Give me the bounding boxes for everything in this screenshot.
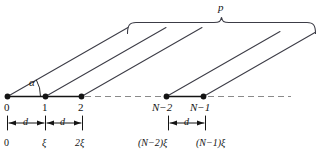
node-index-label-2: 2 — [78, 102, 84, 113]
position-label-2xi: 2ξ — [75, 138, 84, 148]
ray-bundle — [8, 28, 316, 97]
angle-label-alpha: α — [29, 77, 35, 88]
dim-arrowhead-right-n1 — [197, 120, 204, 125]
node-dot-2 — [79, 94, 85, 100]
dim-arrowhead-left-n2 — [170, 120, 177, 125]
ray-from-element-0 — [8, 28, 129, 97]
array-geometry-figure: p α 0 1 2 N−2 N−1 d d d 0 ξ 2ξ (N−2)ξ (N… — [0, 0, 322, 163]
node-dot-1 — [43, 94, 49, 100]
spacing-label-d-0: d — [23, 117, 28, 127]
node-index-label-n-minus-1: N−1 — [190, 102, 210, 113]
node-index-label-0: 0 — [4, 102, 10, 113]
ray-from-element-n-minus-1 — [204, 33, 316, 97]
brace-p — [128, 18, 316, 34]
spacing-label-d-1: d — [60, 117, 65, 127]
node-dot-n-minus-2 — [164, 94, 170, 100]
node-index-label-1: 1 — [42, 102, 48, 113]
dim-arrowhead-left-1 — [47, 120, 54, 125]
position-label-0: 0 — [4, 138, 9, 148]
ray-from-element-n-minus-2 — [167, 32, 281, 97]
dim-arrowhead-left-0 — [9, 120, 16, 125]
angle-arc-alpha — [36, 80, 40, 97]
bracket-label-p: p — [218, 2, 224, 13]
position-label-n-minus-2-xi: (N−2)ξ — [138, 138, 167, 148]
dim-arrowhead-right-2 — [74, 120, 81, 125]
node-index-label-n-minus-2: N−2 — [152, 102, 172, 113]
position-label-n-minus-1-xi: (N−1)ξ — [196, 138, 225, 148]
dimension-row-left — [8, 116, 83, 130]
node-dot-n-minus-1 — [201, 94, 207, 100]
ray-from-element-1 — [46, 28, 167, 97]
position-label-xi: ξ — [42, 138, 46, 148]
node-dot-0 — [5, 94, 11, 100]
dim-arrowhead-right-1 — [37, 120, 44, 125]
spacing-label-d-2: d — [184, 117, 189, 127]
